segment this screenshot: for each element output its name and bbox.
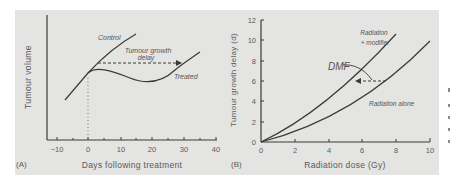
panel-b-y-tick-label: 6 xyxy=(252,77,256,86)
panel-b-x-tick-label: 0 xyxy=(259,146,263,155)
panel-b-dmf-label: DMF xyxy=(328,61,351,72)
panel-b-x-axis-label: Radiation dose (Gy) xyxy=(304,160,385,170)
panel-a-x-tick-label: 0 xyxy=(86,145,90,154)
panel-a-x-tick-label: 20 xyxy=(148,145,156,154)
figure-canvas: −10 0 10 20 30 40 Days following treatme… xyxy=(0,0,456,185)
panel-a-x-tick-label: 30 xyxy=(180,145,188,154)
panel-b-label: (B) xyxy=(231,160,242,169)
panel-a-treated-label: Treated xyxy=(174,73,199,80)
panel-b-y-axis-label: Tumour growth delay (d) xyxy=(229,33,238,127)
panel-a-control-curve xyxy=(65,34,136,100)
panel-b-x-tick-label: 4 xyxy=(327,146,331,155)
panel-b-chart: 0 2 4 6 8 10 12 0 2 4 6 8 10 Radiation d… xyxy=(229,16,434,170)
panel-b-y-tick-label: 12 xyxy=(248,16,256,25)
panel-b-y-tick-label: 2 xyxy=(252,118,256,127)
right-edge-fragments xyxy=(448,88,450,143)
panel-b-y-tick-label: 10 xyxy=(248,36,256,45)
panel-b-y-tick-label: 4 xyxy=(252,97,256,106)
panel-a-chart: −10 0 10 20 30 40 Days following treatme… xyxy=(16,15,220,170)
panel-b-modifier-label-line2: + modifier xyxy=(361,39,391,46)
panel-b-alone-label: Radiation alone xyxy=(369,100,415,107)
panel-b-x-tick-label: 10 xyxy=(426,146,434,155)
panel-a-x-axis-label: Days following treatment xyxy=(82,160,183,170)
panel-a-label: (A) xyxy=(16,160,27,169)
panel-b-y-tick-label: 0 xyxy=(252,138,256,147)
panel-b-radiation-alone-curve xyxy=(261,41,430,142)
panel-a-x-tick-label: 10 xyxy=(117,145,125,154)
panel-b-x-tick-label: 2 xyxy=(293,146,297,155)
panel-a-delay-label-line2: delay xyxy=(138,54,155,62)
panel-a-x-tick-label: −10 xyxy=(51,145,64,154)
panel-b-modifier-label-line1: Radiation xyxy=(360,29,388,36)
panel-b-y-tick-label: 8 xyxy=(252,57,256,66)
panel-b-x-tick-label: 6 xyxy=(360,146,364,155)
panel-a-control-label: Control xyxy=(98,34,121,41)
panel-a-y-axis-label: Tumour volume xyxy=(23,45,33,109)
panel-b-x-tick-label: 8 xyxy=(394,146,398,155)
panel-a-x-tick-label: 40 xyxy=(212,145,220,154)
